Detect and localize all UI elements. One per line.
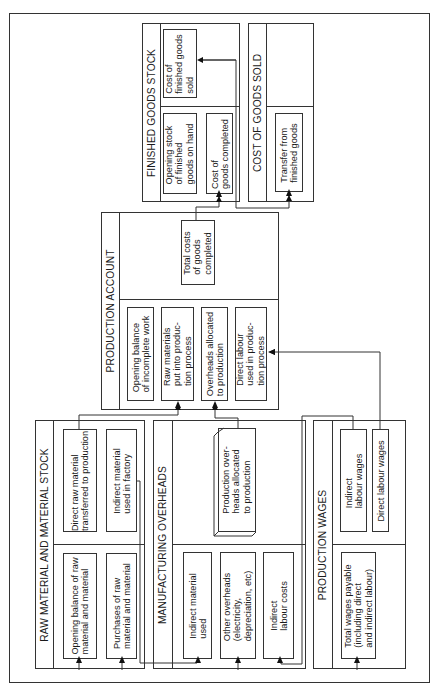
entry-total-wages-payable: Total wages payable (including direct an… [341,552,376,659]
entry-other-overheads: Other overheads (electricity, depreciati… [220,552,256,659]
entry-cost-of-goods-completed: Cost of goods completed [206,113,233,194]
entry-overheads-allocated: Overheads allocated to production [201,307,228,401]
account-header: FINISHED GOODS STOCK [143,24,161,201]
entry-opening-stock-finished-goods: Opening stock of finished goods on hand [163,113,197,194]
divider [161,106,240,107]
account-title: PRODUCTION ACCOUNT [105,250,115,373]
entry-production-overheads-allocated: Production over- heads allocated to prod… [218,428,256,532]
entry-indirect-labour-costs: Indirect labour costs [263,552,294,659]
entry-indirect-material-used: Indirect material used [183,552,212,659]
divider [120,299,279,300]
entry-total-costs-goods-completed: Total costs of goods completed [181,220,215,285]
account-title: PRODUCTION WAGES [318,489,328,599]
entry-indirect-labour-wages: Indirect labour wages [340,429,367,532]
account-header: PRODUCTION WAGES [314,421,333,668]
entry-direct-labour-wages: Direct labour wages [372,429,389,532]
entry-cost-of-finished-goods-sold: Cost of finished goods sold [163,29,197,98]
account-title: RAW MATERIAL AND MATERIAL STOCK [39,448,49,641]
account-header: RAW MATERIAL AND MATERIAL STOCK [36,421,54,668]
account-title: COST OF GOODS SOLD [252,53,262,171]
entry-direct-raw-material-transferred: Direct raw material transferred to produ… [63,429,97,532]
account-header: MANUFACTURING OVERHEADS [154,421,173,668]
entry-purchases-raw-material: Purchases of raw material and material [106,553,137,659]
entry-transfer-from-finished-goods: Transfer from finished goods [275,113,303,192]
entry-raw-materials-into-production: Raw materials put into produc- tion proc… [161,307,194,401]
entry-direct-labour-used: Direct labour used in produc- tion proce… [235,307,267,401]
divider [173,544,306,545]
account-title: FINISHED GOODS STOCK [146,48,156,176]
entry-opening-balance-incomplete-work: Opening balance of incomplete work [127,307,154,401]
account-header: COST OF GOODS SOLD [249,24,267,201]
divider [333,544,406,545]
entry-indirect-material-factory: Indirect material used in factory [106,429,137,532]
account-title: MANUFACTURING OVERHEADS [158,466,168,624]
divider [54,544,145,545]
entry-opening-balance-raw-material: Opening balance of raw material and mate… [63,553,97,659]
account-header: PRODUCTION ACCOUNT [102,213,120,409]
divider [267,106,314,107]
